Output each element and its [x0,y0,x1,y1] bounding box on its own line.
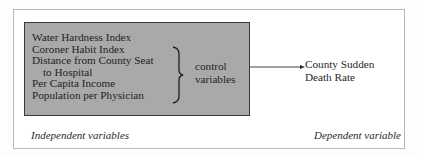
dependent-label-line2: Death Rate [305,71,374,84]
independent-variables-caption: Independent variables [31,129,129,141]
control-label-line2: variables [195,73,235,86]
curly-brace-icon [170,46,186,104]
arrow-right-icon [250,62,306,72]
dependent-label-line1: County Sudden [305,58,374,71]
independent-variable-list: Water Hardness Index Coroner Habit Index… [32,32,153,102]
control-label-line1: control [195,60,235,73]
dependent-variable-label: County Sudden Death Rate [305,58,374,83]
variable-population-per-physician: Population per Physician [32,90,153,102]
control-variables-label: control variables [195,60,235,85]
variable-water-hardness: Water Hardness Index [32,32,153,44]
dependent-variable-caption: Dependent variable [314,129,401,141]
